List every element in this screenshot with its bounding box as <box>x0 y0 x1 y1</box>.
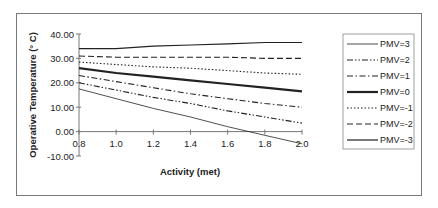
series-line <box>79 68 302 91</box>
legend-label: PMV=0 <box>380 87 410 97</box>
x-tick-label: 1.8 <box>258 138 271 149</box>
legend-label: PMV=1 <box>380 71 410 81</box>
x-tick-label: 1.4 <box>184 138 197 149</box>
legend-label: PMV=-3 <box>380 135 413 145</box>
x-axis-title: Activity (met) <box>160 166 220 177</box>
series-line <box>79 43 302 49</box>
legend-label: PMV=2 <box>380 55 410 65</box>
legend-label: PMV=-2 <box>380 119 413 129</box>
series-line <box>79 56 302 58</box>
y-tick-label: 20.00 <box>50 77 74 88</box>
legend-label: PMV=3 <box>380 39 410 49</box>
y-tick-label: -10.00 <box>47 151 74 162</box>
series-line <box>79 89 302 144</box>
legend-label: PMV=-1 <box>380 103 413 113</box>
x-tick-label: 1.0 <box>110 138 123 149</box>
legend: PMV=3PMV=2PMV=1PMV=0PMV=-1PMV=-2PMV=-3 <box>343 34 414 149</box>
line-chart: 40.0030.0020.0010.000.00-10.000.81.01.21… <box>0 0 438 208</box>
plot-lines <box>79 43 302 144</box>
x-tick-label: 1.6 <box>221 138 234 149</box>
y-axis-title: Operative Temperature (° C) <box>27 32 38 158</box>
y-tick-label: 40.00 <box>50 29 74 40</box>
y-tick-label: 30.00 <box>50 53 74 64</box>
x-tick-label: 1.2 <box>147 138 160 149</box>
y-tick-label: 0.00 <box>56 126 75 137</box>
y-tick-label: 10.00 <box>50 102 74 113</box>
x-tick-label: 0.8 <box>72 138 85 149</box>
